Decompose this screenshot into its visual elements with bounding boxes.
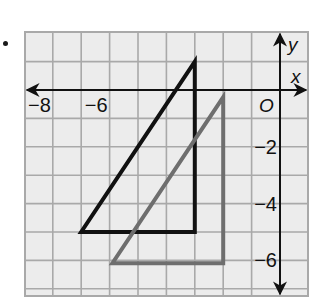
x-tick-label: −6 xyxy=(85,94,108,116)
x-axis-label: x xyxy=(290,66,302,87)
coordinate-plane-figure: −8−6−2−4−6 x y O xyxy=(0,0,319,306)
y-tick-label: −2 xyxy=(254,136,277,158)
x-tick-label: −8 xyxy=(28,94,51,116)
problem-number-marker xyxy=(3,41,8,46)
y-tick-label: −4 xyxy=(254,193,277,215)
y-tick-label: −6 xyxy=(254,249,277,271)
origin-label: O xyxy=(259,95,274,116)
y-axis-label: y xyxy=(286,34,299,55)
coordinate-grid: −8−6−2−4−6 x y O xyxy=(0,0,319,306)
